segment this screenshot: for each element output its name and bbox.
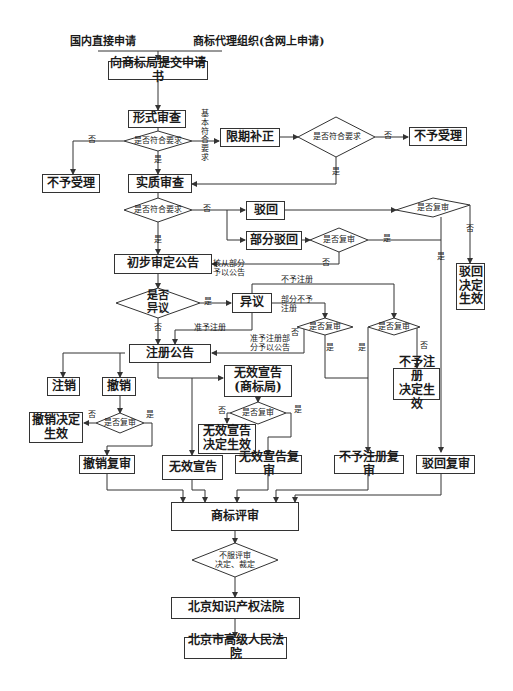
edge-label-yes: 是 <box>294 406 302 415</box>
decision-has-opposition: 是否 异议 <box>116 288 200 318</box>
no-acceptance-right-box: 不予受理 <box>409 127 467 146</box>
edge-label-no: 否 <box>420 342 428 351</box>
revoke-box: 撤销 <box>102 377 136 396</box>
edge-label-yes: 是 <box>204 298 212 307</box>
edge-label-no: 否 <box>203 205 211 214</box>
decision-meets-requirements-2: 是否符合要求 <box>298 117 375 157</box>
no-registration-review-box: 不予注册复审 <box>334 455 404 474</box>
invalid-review-box: 无效宣告复审 <box>235 455 302 474</box>
edge-label-yes: 是 <box>437 253 445 262</box>
substantive-exam-box: 实质审查 <box>128 174 192 193</box>
edge-label-yes: 是 <box>154 236 162 245</box>
source-domestic-direct: 国内直接申请 <box>70 32 136 48</box>
edge-label-yes: 是 <box>154 156 162 165</box>
trademark-review-box: 商标评审 <box>171 502 299 531</box>
decision-meets-requirements-3: 是否符合要求 <box>124 198 192 222</box>
edge-label-yes: 是 <box>146 411 154 420</box>
edge-label-no: 否 <box>291 329 299 338</box>
formal-exam-box: 形式审查 <box>128 110 186 128</box>
edge-label-no: 否 <box>88 136 96 145</box>
source-agency-online: 商标代理组织(含网上申请) <box>193 32 324 48</box>
edge-label-yes: 是 <box>326 344 334 353</box>
invalid-declaration-box: 无效宣告 <box>162 455 223 480</box>
partial-reject-box: 部分驳回 <box>246 231 302 250</box>
edge-label-no: 否 <box>88 411 96 420</box>
edge-label-yes: 是 <box>332 168 340 177</box>
reject-review-box: 驳回复审 <box>416 455 475 474</box>
edge-label-partial-approved-registration: 准予注册部 分予以公告 <box>250 335 290 353</box>
decision-review-revoke: 是否复审 <box>96 413 144 433</box>
revoke-effective-box: 撤销决定 生效 <box>29 412 83 443</box>
decision-review-partial-reject: 是否复审 <box>310 228 368 252</box>
edge-label-approved-registration: 准予注册 <box>194 324 226 333</box>
edge-label-yes: 是 <box>383 235 391 244</box>
edge-label-basically-meets: 基 本 符 合 要 求 <box>200 110 209 163</box>
reject-box: 驳回 <box>246 201 285 220</box>
edge-label-partial-approved: 核从部分 予以公告 <box>213 260 245 278</box>
no-registration-effective-box: 不予注册 决定生效 <box>393 368 440 400</box>
edge-label-no: 否 <box>218 407 226 416</box>
edge-label-no: 否 <box>384 132 392 141</box>
beijing-high-court-box: 北京市高级人民法院 <box>184 637 287 659</box>
edge-label-yes: 是 <box>358 344 366 353</box>
edge-label-no: 否 <box>322 259 330 268</box>
reject-effective-box: 驳回 决定 生效 <box>456 263 485 310</box>
edge-label-partial-no-registration: 部分不予 注册 <box>281 296 313 314</box>
limited-correction-box: 限期补正 <box>220 128 280 147</box>
registration-announcement-box: 注册公告 <box>129 344 211 363</box>
edge-label-no: 否 <box>154 324 162 333</box>
preliminary-announcement-box: 初步审定公告 <box>114 254 212 274</box>
submit-application-box: 向商标局提交申请书 <box>108 61 208 80</box>
edge-label-no: 否 <box>466 225 474 234</box>
no-acceptance-left-box: 不予受理 <box>42 174 100 193</box>
opposition-box: 异议 <box>232 293 272 313</box>
decision-dissatisfied-with-review: 不服评审 决定、裁定 <box>192 543 278 577</box>
beijing-ip-court-box: 北京知识产权法院 <box>171 597 300 619</box>
decision-review-opposition-partial: 是否复审 <box>297 318 353 335</box>
invalid-declaration-office-box: 无效宣告 (商标局) <box>224 365 292 397</box>
cancel-box: 注销 <box>47 377 80 396</box>
decision-review-no-registration: 是否复审 <box>368 318 420 335</box>
decision-review-reject: 是否复审 <box>396 198 470 217</box>
revoke-review-box: 撤销复审 <box>79 455 135 474</box>
decision-review-invalid: 是否复审 <box>230 402 286 424</box>
decision-meets-requirements-1: 是否符合要求 <box>124 131 192 151</box>
edge-label-no-registration: 不予注册 <box>281 276 313 285</box>
